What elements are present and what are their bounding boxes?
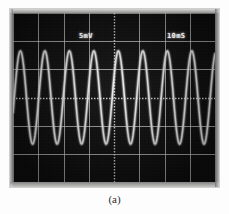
bezel-bottom-edge xyxy=(10,182,219,187)
crt-screen: 5mV 10mS xyxy=(13,13,215,182)
bezel-right-edge xyxy=(215,9,219,187)
figure-panel: 5mV 10mS (a) xyxy=(0,0,229,214)
timebase-label: 10mS xyxy=(167,32,185,40)
vertical-scale-label: 5mV xyxy=(79,32,93,40)
oscilloscope-photo: 5mV 10mS xyxy=(10,9,219,187)
figure-caption: (a) xyxy=(0,193,229,205)
